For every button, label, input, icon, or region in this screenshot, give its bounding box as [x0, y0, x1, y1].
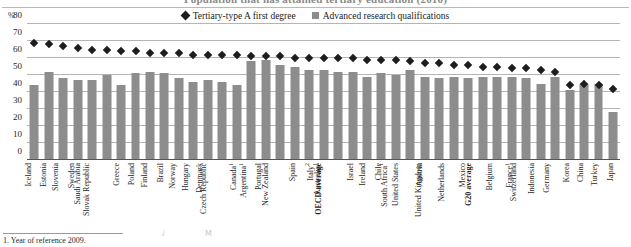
bar[interactable] [464, 78, 473, 160]
chart-column[interactable] [273, 24, 287, 160]
chart-column[interactable] [331, 24, 345, 160]
diamond-marker-icon[interactable] [117, 47, 125, 55]
diamond-marker-icon[interactable] [493, 62, 501, 70]
chart-column[interactable] [302, 24, 316, 160]
chart-column[interactable] [345, 24, 359, 160]
bar[interactable] [189, 82, 198, 160]
chart-column[interactable] [27, 24, 41, 160]
diamond-marker-icon[interactable] [189, 50, 197, 58]
chart-column[interactable] [577, 24, 591, 160]
bar[interactable] [565, 90, 574, 160]
diamond-marker-icon[interactable] [406, 57, 414, 65]
diamond-marker-icon[interactable] [204, 50, 212, 58]
bar[interactable] [174, 78, 183, 160]
bar[interactable] [88, 80, 97, 160]
chart-column[interactable] [418, 24, 432, 160]
bar[interactable] [59, 78, 68, 160]
diamond-marker-icon[interactable] [305, 54, 313, 62]
chart-column[interactable] [432, 24, 446, 160]
chart-column[interactable] [548, 24, 562, 160]
bar[interactable] [276, 65, 285, 160]
bar[interactable] [146, 72, 155, 160]
chart-column[interactable] [374, 24, 388, 160]
diamond-marker-icon[interactable] [276, 52, 284, 60]
bar[interactable] [609, 112, 618, 160]
bar[interactable] [478, 77, 487, 160]
bar[interactable] [551, 77, 560, 160]
bar[interactable] [232, 85, 241, 160]
diamond-marker-icon[interactable] [59, 42, 67, 50]
bar[interactable] [290, 67, 299, 161]
diamond-marker-icon[interactable] [479, 62, 487, 70]
bar[interactable] [493, 77, 502, 160]
chart-column[interactable] [128, 24, 142, 160]
bar[interactable] [44, 72, 53, 160]
chart-column[interactable] [461, 24, 475, 160]
diamond-marker-icon[interactable] [175, 49, 183, 57]
bar[interactable] [73, 80, 82, 160]
diamond-marker-icon[interactable] [218, 50, 226, 58]
diamond-marker-icon[interactable] [73, 44, 81, 52]
diamond-marker-icon[interactable] [377, 55, 385, 63]
bar[interactable] [406, 70, 415, 160]
diamond-marker-icon[interactable] [507, 64, 515, 72]
bar[interactable] [580, 84, 589, 161]
chart-column[interactable] [99, 24, 113, 160]
bar[interactable] [247, 61, 256, 160]
chart-column[interactable] [519, 24, 533, 160]
bar[interactable] [536, 84, 545, 161]
chart-column[interactable] [606, 24, 620, 160]
bar[interactable] [522, 78, 531, 160]
chart-column[interactable] [172, 24, 186, 160]
diamond-marker-icon[interactable] [551, 67, 559, 75]
chart-column[interactable] [360, 24, 374, 160]
chart-column[interactable] [157, 24, 171, 160]
chart-column[interactable] [591, 24, 605, 160]
diamond-marker-icon[interactable] [435, 59, 443, 67]
chart-column[interactable] [447, 24, 461, 160]
bar[interactable] [594, 84, 603, 161]
diamond-marker-icon[interactable] [450, 61, 458, 69]
diamond-marker-icon[interactable] [565, 81, 573, 89]
chart-column[interactable] [389, 24, 403, 160]
diamond-marker-icon[interactable] [421, 59, 429, 67]
bar[interactable] [348, 72, 357, 160]
bar[interactable] [435, 78, 444, 160]
chart-column[interactable] [504, 24, 518, 160]
bar[interactable] [319, 70, 328, 160]
diamond-marker-icon[interactable] [44, 40, 52, 48]
diamond-marker-icon[interactable] [233, 50, 241, 58]
chart-column[interactable] [215, 24, 229, 160]
chart-column[interactable] [259, 24, 273, 160]
chart-column[interactable] [143, 24, 157, 160]
chart-column[interactable] [56, 24, 70, 160]
diamond-marker-icon[interactable] [536, 66, 544, 74]
bar[interactable] [30, 85, 39, 160]
bar[interactable] [377, 73, 386, 160]
bar[interactable] [363, 77, 372, 160]
bar[interactable] [203, 80, 212, 160]
chart-column[interactable] [41, 24, 55, 160]
chart-column[interactable] [85, 24, 99, 160]
diamond-marker-icon[interactable] [290, 54, 298, 62]
chart-column[interactable] [476, 24, 490, 160]
chart-column[interactable] [490, 24, 504, 160]
diamond-marker-icon[interactable] [247, 52, 255, 60]
chart-column[interactable] [244, 24, 258, 160]
bar[interactable] [420, 77, 429, 160]
diamond-marker-icon[interactable] [102, 45, 110, 53]
bar[interactable] [449, 77, 458, 160]
diamond-marker-icon[interactable] [609, 84, 617, 92]
diamond-marker-icon[interactable] [131, 47, 139, 55]
chart-column[interactable] [403, 24, 417, 160]
bar[interactable] [117, 85, 126, 160]
diamond-marker-icon[interactable] [522, 64, 530, 72]
diamond-marker-icon[interactable] [30, 38, 38, 46]
diamond-marker-icon[interactable] [334, 54, 342, 62]
bar[interactable] [305, 70, 314, 160]
bar[interactable] [391, 75, 400, 160]
bar[interactable] [507, 77, 516, 160]
diamond-marker-icon[interactable] [464, 61, 472, 69]
legend-item-tertiary-type-a[interactable]: Tertiary-type A first degree [182, 11, 296, 21]
diamond-marker-icon[interactable] [160, 49, 168, 57]
